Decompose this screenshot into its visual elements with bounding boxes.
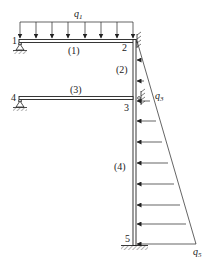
load-triangular: q3 q5	[137, 41, 202, 259]
member-2-label: (2)	[116, 64, 128, 76]
member-3: (3)	[19, 84, 133, 100]
member-4-label: (4)	[114, 161, 126, 173]
member-3-label: (3)	[70, 84, 82, 96]
node-4-label: 4	[11, 92, 16, 103]
member-1-label: (1)	[68, 45, 80, 57]
node-2-label: 2	[122, 42, 127, 53]
frame-diagram: q1 (1) 1 2 (2) (4) (3) 4	[0, 0, 210, 262]
load-q5-label: q5	[193, 246, 202, 259]
roller-support-node-2	[137, 32, 141, 48]
load-q1: q1	[20, 8, 133, 38]
node-1-label: 1	[12, 35, 17, 46]
node-3-label: 3	[124, 102, 129, 113]
pin-support-node-4: 4	[11, 92, 27, 111]
member-1: (1)	[19, 40, 136, 58]
node-5-label: 5	[125, 233, 130, 244]
pin-support-node-1: 1	[12, 35, 27, 54]
column: 2 (2) (4)	[114, 40, 136, 246]
load-q3-label: q3	[155, 90, 164, 103]
load-q1-label: q1	[74, 8, 83, 21]
